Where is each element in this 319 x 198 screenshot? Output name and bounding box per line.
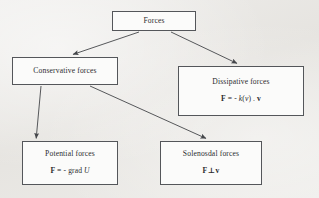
node-dissipative-forces[interactable]: Dissipative forces F = - k(v) . v bbox=[178, 66, 304, 116]
node-conservative-forces[interactable]: Conservative forces bbox=[12, 57, 118, 85]
formula-symbol-velocity-vector: v bbox=[216, 166, 220, 175]
node-solenoidal-forces-title: Solenosdal forces bbox=[183, 150, 239, 159]
node-solenoidal-forces[interactable]: Solenosdal forces F⊥v bbox=[160, 141, 262, 185]
node-forces[interactable]: Forces bbox=[112, 11, 196, 31]
node-conservative-forces-title: Conservative forces bbox=[33, 67, 96, 76]
diagram-canvas: Forces Conservative forces Dissipative f… bbox=[0, 0, 319, 198]
formula-symbol-potential-energy: U bbox=[84, 166, 90, 175]
node-potential-forces-formula: F = - grad U bbox=[50, 167, 89, 176]
node-forces-title: Forces bbox=[143, 17, 164, 26]
arrow-conservative-to-potential bbox=[36, 86, 41, 138]
node-dissipative-forces-formula: F = - k(v) . v bbox=[221, 95, 261, 104]
formula-operator-equals-minus: = - bbox=[226, 94, 239, 103]
node-dissipative-forces-title: Dissipative forces bbox=[212, 78, 269, 87]
arrow-forces-to-dissipative bbox=[171, 32, 237, 63]
node-potential-forces-title: Potential forces bbox=[45, 150, 95, 159]
node-solenoidal-forces-formula: F⊥v bbox=[202, 167, 219, 176]
formula-symbol-velocity-vector: v bbox=[257, 94, 261, 103]
formula-operator-perpendicular: ⊥ bbox=[207, 166, 215, 175]
formula-operator-equals-minus-grad: = - grad bbox=[55, 166, 84, 175]
arrow-forces-to-conservative bbox=[73, 32, 139, 54]
node-potential-forces[interactable]: Potential forces F = - grad U bbox=[22, 141, 118, 185]
